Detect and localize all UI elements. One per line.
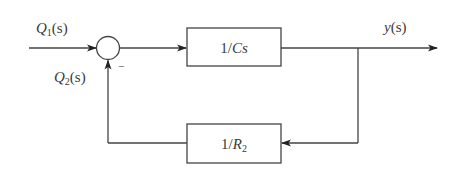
- forward-block-label: 1/Cs: [220, 40, 248, 56]
- block-diagram: 1/Cs 1/R2 Q1(s) Q2(s) − y(s): [0, 0, 455, 171]
- output-y-label: y(s): [382, 19, 407, 36]
- input-q1-label: Q1(s): [36, 20, 68, 38]
- minus-sign: −: [118, 60, 124, 72]
- input-q2-label: Q2(s): [54, 69, 86, 87]
- summing-junction: [97, 37, 120, 60]
